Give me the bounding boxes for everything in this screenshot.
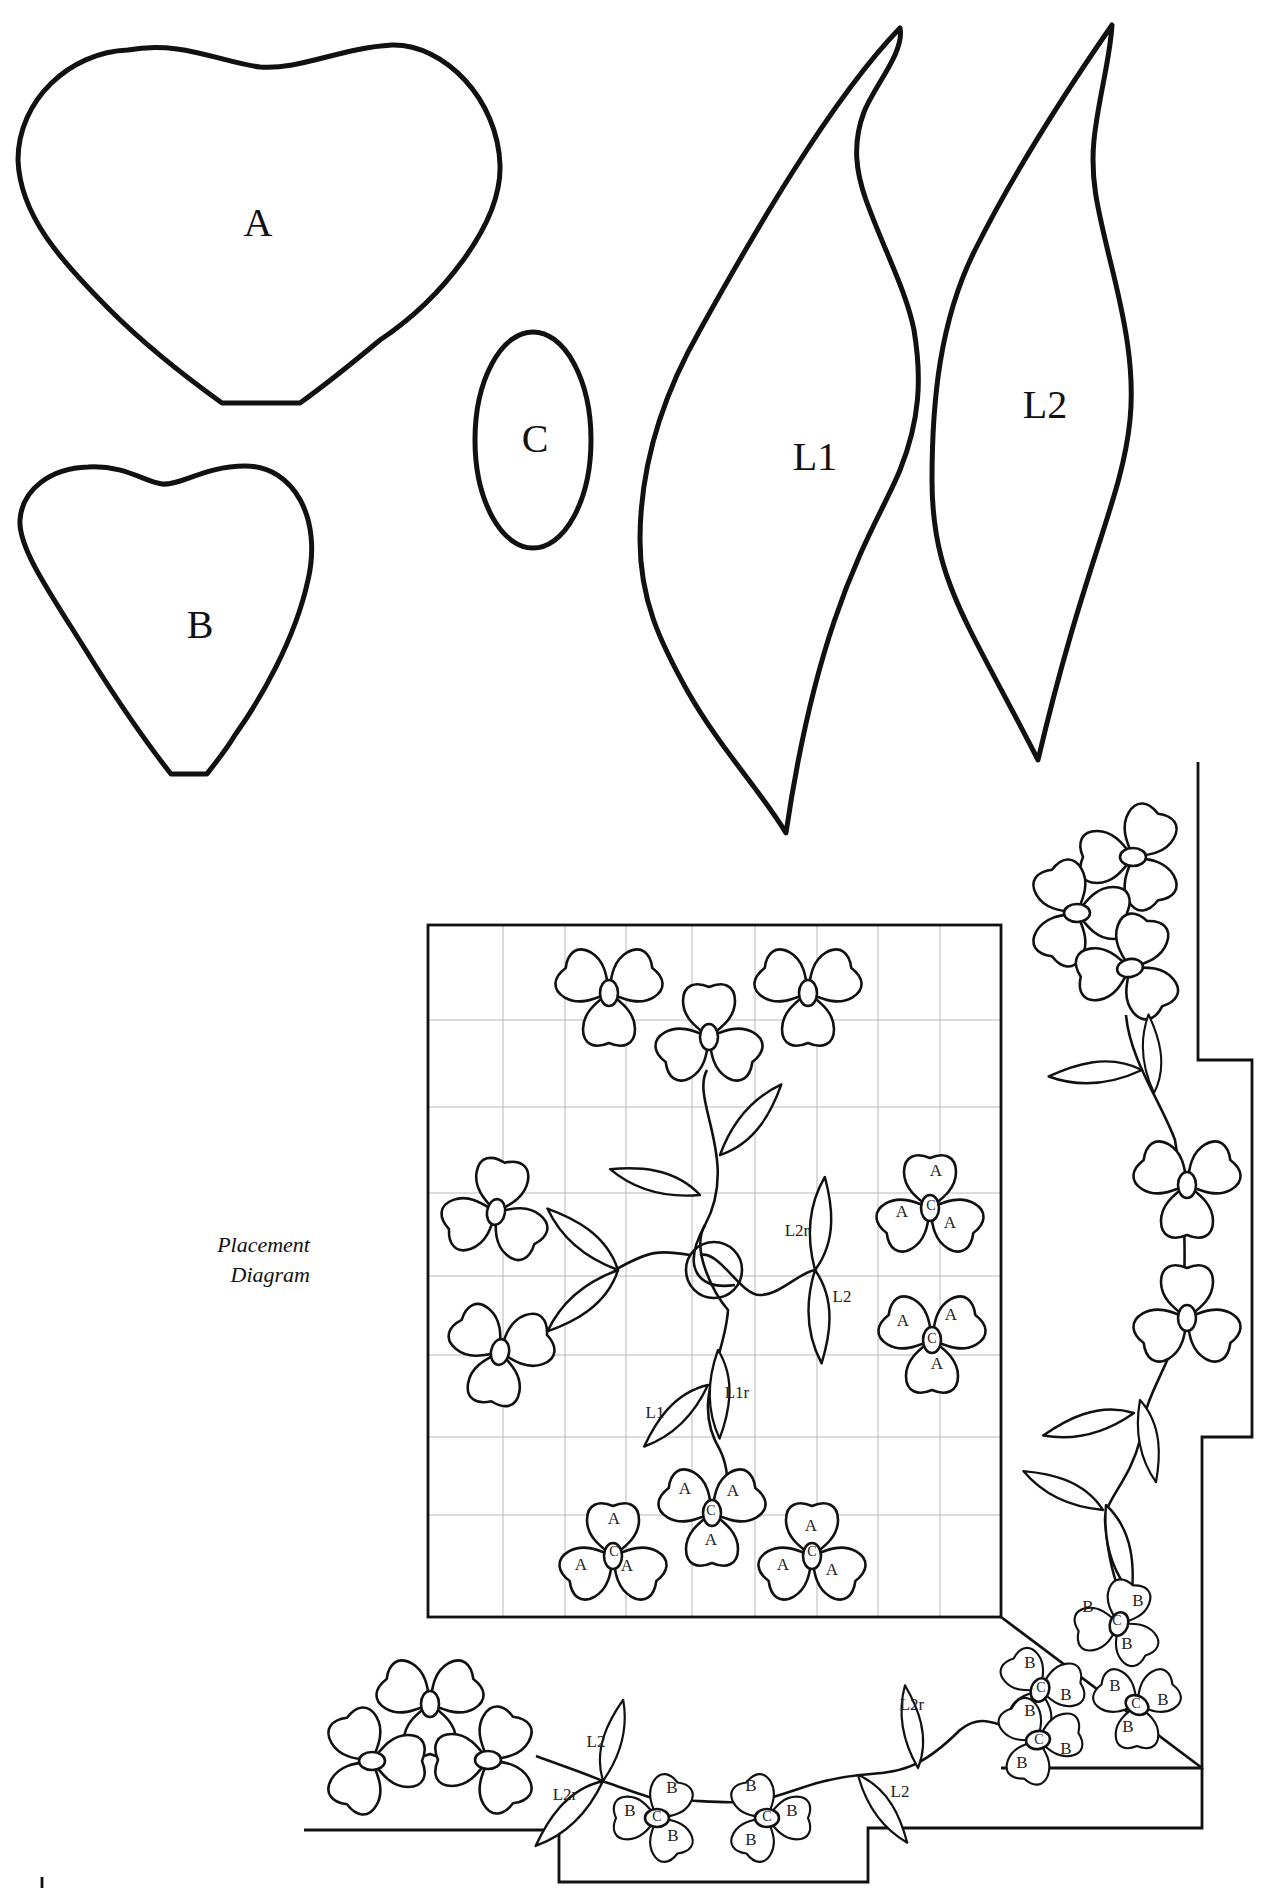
svg-text:A: A <box>805 1516 818 1535</box>
svg-text:B: B <box>1082 1597 1093 1616</box>
svg-text:C: C <box>1034 1732 1043 1747</box>
svg-text:A: A <box>705 1530 718 1549</box>
svg-text:B: B <box>1157 1690 1168 1709</box>
label-l2: L2 <box>587 1732 606 1751</box>
svg-text:C: C <box>706 1503 715 1518</box>
svg-text:A: A <box>897 1311 910 1330</box>
svg-text:C: C <box>927 1331 936 1346</box>
svg-text:A: A <box>777 1555 790 1574</box>
svg-text:C: C <box>926 1198 935 1213</box>
svg-text:C: C <box>652 1809 661 1824</box>
label-l2r: L2r <box>900 1695 925 1714</box>
right-border-vine: B B B C B B B C B B B C <box>980 798 1246 1766</box>
label-l1: L1 <box>646 1403 665 1422</box>
svg-text:B: B <box>1122 1717 1133 1736</box>
placement-diagram: L2r L2 L1 L1r A A A C A A A C A <box>0 0 1268 1888</box>
svg-text:A: A <box>930 1161 943 1180</box>
bottom-border-vine: L2 L2r L2r L2 B B B C B B B C B B B C <box>323 1655 1089 1866</box>
label-l2: L2 <box>891 1782 910 1801</box>
svg-text:A: A <box>945 1305 958 1324</box>
svg-text:C: C <box>1036 1680 1045 1695</box>
label-l1r: L1r <box>725 1383 750 1402</box>
label-l2r: L2r <box>785 1221 810 1240</box>
svg-text:A: A <box>575 1555 588 1574</box>
svg-text:A: A <box>931 1354 944 1373</box>
svg-text:A: A <box>621 1556 634 1575</box>
svg-text:B: B <box>624 1801 635 1820</box>
svg-text:B: B <box>745 1776 756 1795</box>
svg-text:B: B <box>1060 1739 1071 1758</box>
svg-text:B: B <box>666 1778 677 1797</box>
svg-text:B: B <box>1060 1685 1071 1704</box>
svg-text:A: A <box>679 1479 692 1498</box>
svg-text:B: B <box>1016 1753 1027 1772</box>
flower <box>430 1150 563 1270</box>
svg-text:C: C <box>807 1544 816 1559</box>
svg-text:A: A <box>727 1481 740 1500</box>
svg-text:B: B <box>1024 1653 1035 1672</box>
center-block: L2r L2 L1 L1r A A A C A A A C A <box>428 925 1001 1617</box>
svg-text:A: A <box>608 1509 621 1528</box>
svg-text:C: C <box>1112 1613 1121 1628</box>
svg-text:C: C <box>1131 1696 1140 1711</box>
svg-text:B: B <box>667 1826 678 1845</box>
svg-text:A: A <box>944 1213 957 1232</box>
svg-text:B: B <box>1132 1591 1143 1610</box>
flower <box>650 984 767 1085</box>
svg-text:B: B <box>786 1801 797 1820</box>
label-l2r: L2r <box>553 1785 578 1804</box>
label-l2: L2 <box>833 1287 852 1306</box>
svg-text:C: C <box>609 1544 618 1559</box>
svg-text:B: B <box>1109 1676 1120 1695</box>
svg-text:B: B <box>1121 1634 1132 1653</box>
flower <box>749 944 866 1045</box>
svg-text:A: A <box>896 1202 909 1221</box>
flower <box>433 1294 566 1414</box>
flower <box>550 944 667 1045</box>
svg-text:B: B <box>745 1830 756 1849</box>
svg-text:A: A <box>826 1560 839 1579</box>
svg-text:C: C <box>762 1809 771 1824</box>
svg-text:B: B <box>1024 1701 1035 1720</box>
